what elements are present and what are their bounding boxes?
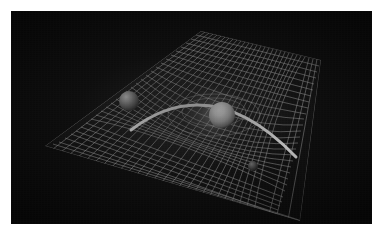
tertiary-mass-sphere xyxy=(248,161,258,171)
secondary-mass-sphere xyxy=(119,91,139,111)
photograph xyxy=(11,11,372,224)
central-mass-sphere xyxy=(209,102,235,128)
spacetime-illustration xyxy=(11,11,372,224)
image-canvas: Spacetime curvature grid with masses and… xyxy=(0,0,383,236)
